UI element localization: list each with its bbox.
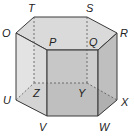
vertex-label-t: T [28,2,36,14]
vertex-label-z: Z [32,87,41,99]
vertex-label-o: O [2,27,11,39]
vertex-label-x: X [120,96,129,108]
vertex-label-q: Q [89,36,98,48]
vertex-label-u: U [3,94,11,106]
vertex-label-r: R [120,27,128,39]
vertex-label-p: P [49,36,57,48]
hexagonal-prism-diagram: T S R O P Q Z Y U X V W [0,0,134,138]
vertex-label-w: W [99,121,111,133]
vertex-label-y: Y [78,87,86,99]
vertex-label-v: V [39,121,48,133]
vertex-label-s: S [86,2,94,14]
